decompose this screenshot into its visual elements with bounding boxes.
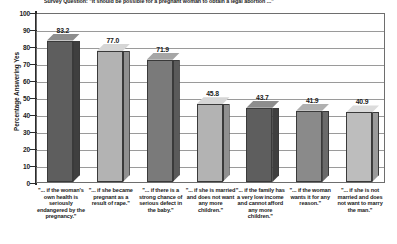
y-axis-tick: [30, 166, 37, 167]
bar: [296, 111, 322, 182]
gridline: [37, 48, 384, 49]
bar-side-face: [372, 112, 379, 182]
x-category-label: "... if the woman wants it for any reaso…: [285, 187, 335, 207]
bar: [97, 51, 123, 182]
gridline: [37, 82, 384, 83]
bar-value-label: 40.9: [342, 98, 382, 105]
gridline: [37, 65, 384, 66]
y-tick-label: 60: [4, 78, 30, 85]
bar-front-face: [47, 41, 73, 182]
y-tick-label: 80: [4, 44, 30, 51]
plot-area: [36, 13, 385, 183]
y-axis-tick: [30, 81, 37, 82]
chart-title: Survey Question: "It should be possible …: [44, 0, 394, 4]
bar-top-face: [246, 101, 279, 108]
bar-value-label: 71.9: [143, 46, 183, 53]
bar-side-face: [223, 104, 230, 182]
bar-value-label: 43.7: [242, 94, 282, 101]
y-tick-label: 70: [4, 61, 30, 68]
bar-front-face: [296, 111, 322, 182]
y-tick-label: 50: [4, 95, 30, 102]
y-axis-tick: [30, 115, 37, 116]
bar-value-label: 77.0: [93, 37, 133, 44]
y-tick-label: 30: [4, 129, 30, 136]
x-category-label: "... if the woman's own health is seriou…: [36, 187, 86, 220]
bar-front-face: [147, 60, 173, 182]
y-axis-tick: [30, 132, 37, 133]
y-axis-tick: [30, 47, 37, 48]
bar-side-face: [123, 51, 130, 182]
y-tick-label: 10: [4, 163, 30, 170]
y-axis-tick: [30, 30, 37, 31]
y-axis-tick: [30, 98, 37, 99]
bar-side-face: [173, 60, 180, 182]
y-tick-label: 20: [4, 146, 30, 153]
y-axis-tick-labels: 1009080706050403020100: [0, 0, 30, 244]
bar: [47, 41, 73, 182]
bar: [346, 112, 372, 182]
y-tick-label: 40: [4, 112, 30, 119]
bar-value-label: 41.9: [292, 97, 332, 104]
bar-front-face: [246, 108, 272, 182]
bar-top-face: [346, 105, 379, 112]
bar-top-face: [296, 104, 329, 111]
gridline: [37, 31, 384, 32]
bar-top-face: [147, 53, 180, 60]
x-category-label: "... if she is not married and does not …: [335, 187, 385, 213]
bar-front-face: [97, 51, 123, 182]
y-axis-tick: [30, 183, 37, 184]
y-axis-tick: [30, 149, 37, 150]
bar-top-face: [97, 44, 130, 51]
bar: [147, 60, 173, 182]
bar-chart: Survey Question: "It should be possible …: [0, 0, 397, 244]
x-category-label: "... if she is married and does not want…: [186, 187, 236, 213]
bar-top-face: [47, 34, 80, 41]
bar-value-label: 83.2: [43, 27, 83, 34]
bar-front-face: [346, 112, 372, 182]
bar: [246, 108, 272, 182]
y-axis-tick: [30, 64, 37, 65]
x-category-label: "... if there is a strong chance of seri…: [136, 187, 186, 213]
y-tick-label: 100: [4, 10, 30, 17]
bar-side-face: [272, 108, 279, 182]
bar-side-face: [322, 111, 329, 182]
x-category-label: "... if the family has a very low income…: [235, 187, 285, 220]
bar-side-face: [73, 41, 80, 182]
x-category-label: "... if she became pregnant as a result …: [86, 187, 136, 207]
y-tick-label: 0: [4, 180, 30, 187]
y-tick-label: 90: [4, 27, 30, 34]
y-axis-tick: [30, 13, 37, 14]
bar: [197, 104, 223, 182]
bar-value-label: 45.8: [193, 90, 233, 97]
bar-front-face: [197, 104, 223, 182]
